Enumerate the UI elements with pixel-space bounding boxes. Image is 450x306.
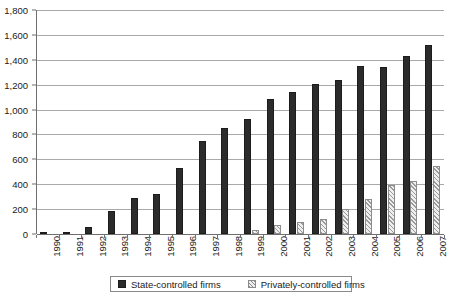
x-tick-mark [172, 235, 173, 238]
x-tick-mark [285, 235, 286, 238]
bar-state-1993 [108, 211, 115, 234]
bar-private-1999 [252, 230, 259, 234]
x-tick-mark [353, 235, 354, 238]
x-tick-mark [399, 235, 400, 238]
x-tick-mark [421, 235, 422, 238]
bar-state-2000 [267, 99, 274, 234]
legend-label-state: State-controlled firms [131, 279, 221, 290]
x-tick-mark [240, 235, 241, 238]
legend-item-state-controlled[interactable]: State-controlled firms [118, 279, 221, 290]
x-tick-mark [376, 235, 377, 238]
bar-state-1994 [131, 198, 138, 234]
legend-label-private: Privately-controlled firms [261, 279, 365, 290]
legend-swatch-private-icon [248, 280, 256, 288]
x-axis: 1990199119921993199419951996199719981999… [36, 236, 444, 276]
x-tick-label-1990: 1990 [51, 236, 62, 257]
bar-state-1992 [85, 227, 92, 234]
bar-private-2001 [297, 222, 304, 234]
x-tick-label-2001: 2001 [301, 236, 312, 257]
x-tick-label-1992: 1992 [97, 236, 108, 257]
y-tick-label: 200 [12, 204, 28, 215]
bar-state-2007 [425, 45, 432, 234]
x-tick-label-1994: 1994 [142, 236, 153, 257]
y-tick-label: 1,600 [4, 29, 28, 40]
bar-private-2005 [388, 185, 395, 234]
legend-swatch-state-icon [118, 280, 126, 288]
chart-legend: State-controlled firms Privately-control… [110, 276, 352, 292]
bar-state-2006 [403, 56, 410, 234]
bar-state-1996 [176, 168, 183, 234]
x-tick-mark [81, 235, 82, 238]
x-tick-mark [149, 235, 150, 238]
x-tick-mark [308, 235, 309, 238]
y-tick-label: 800 [12, 129, 28, 140]
bar-state-2002 [312, 84, 319, 234]
bar-state-1997 [199, 141, 206, 234]
y-tick-label: 1,400 [4, 54, 28, 65]
bar-state-1999 [244, 119, 251, 234]
x-tick-mark [217, 235, 218, 238]
x-tick-label-1996: 1996 [187, 236, 198, 257]
x-tick-label-1999: 1999 [255, 236, 266, 257]
bar-state-1990 [40, 232, 47, 234]
x-tick-label-1997: 1997 [210, 236, 221, 257]
bar-state-2004 [357, 66, 364, 234]
y-tick-label: 400 [12, 179, 28, 190]
legend-item-privately-controlled[interactable]: Privately-controlled firms [248, 279, 365, 290]
x-tick-label-1995: 1995 [165, 236, 176, 257]
bar-private-2006 [410, 181, 417, 235]
x-tick-mark [127, 235, 128, 238]
bar-private-2003 [342, 209, 349, 235]
bar-private-2007 [433, 166, 440, 234]
y-tick-label: 1,200 [4, 79, 28, 90]
bar-state-1995 [153, 194, 160, 234]
bar-state-1998 [221, 128, 228, 234]
y-tick-label: 600 [12, 154, 28, 165]
x-tick-label-2003: 2003 [346, 236, 357, 257]
x-tick-label-1998: 1998 [233, 236, 244, 257]
bar-state-2001 [289, 92, 296, 234]
x-tick-label-2005: 2005 [391, 236, 402, 257]
x-tick-label-1991: 1991 [74, 236, 85, 257]
y-axis: 02004006008001,0001,2001,4001,6001,800 [0, 10, 32, 234]
bar-state-2005 [380, 67, 387, 234]
bar-private-2000 [274, 225, 281, 234]
x-tick-label-2007: 2007 [437, 236, 448, 257]
x-tick-label-1993: 1993 [119, 236, 130, 257]
bar-chart-figure: 02004006008001,0001,2001,4001,6001,800 1… [0, 0, 450, 306]
bar-state-1991 [63, 232, 70, 234]
plot-area [36, 10, 444, 234]
x-tick-label-2006: 2006 [414, 236, 425, 257]
x-tick-mark [104, 235, 105, 238]
x-tick-label-2002: 2002 [323, 236, 334, 257]
x-tick-mark [331, 235, 332, 238]
x-tick-mark [36, 235, 37, 238]
x-tick-mark [59, 235, 60, 238]
bar-private-2004 [365, 199, 372, 234]
x-tick-label-2000: 2000 [278, 236, 289, 257]
x-tick-label-2004: 2004 [369, 236, 380, 257]
y-tick-label: 1,000 [4, 104, 28, 115]
x-tick-mark [444, 235, 445, 238]
y-tick-label: 1,800 [4, 5, 28, 16]
y-tick-label: 0 [23, 229, 28, 240]
x-tick-mark [263, 235, 264, 238]
bar-state-2003 [335, 80, 342, 234]
x-tick-mark [195, 235, 196, 238]
bars-container [36, 10, 444, 234]
bar-private-2002 [320, 219, 327, 234]
